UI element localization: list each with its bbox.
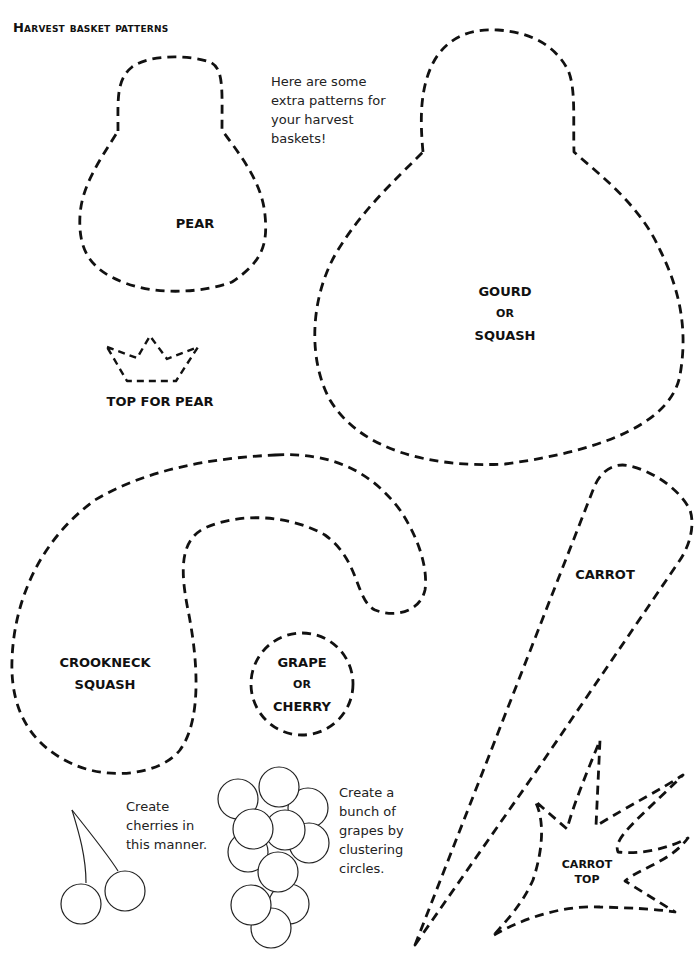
cherries-note-line: this manner. — [126, 835, 207, 854]
cherry-left — [61, 884, 101, 924]
grape-label: GRAPE OR CHERRY — [262, 652, 342, 718]
cherry-stem-right — [72, 810, 118, 871]
gourd-label-line1: GOURD — [455, 281, 555, 303]
intro-note-line: extra patterns for — [271, 91, 386, 110]
pear-top-outline — [107, 336, 198, 381]
intro-note-line: baskets! — [271, 129, 386, 148]
grapes-note-line: circles. — [339, 859, 404, 878]
carrot-top-label-line1: CARROT — [547, 857, 627, 872]
intro-note-line: Here are some — [271, 72, 386, 91]
grape-label-line1: GRAPE — [262, 652, 342, 674]
cherries-note-line: Create — [126, 797, 207, 816]
pear-outline — [80, 57, 266, 291]
intro-note: Here are some extra patterns for your ha… — [271, 72, 386, 148]
pear-label: PEAR — [145, 216, 245, 232]
cherry-stem-left — [72, 810, 86, 883]
carrot-top-label-line2: TOP — [547, 872, 627, 887]
crookneck-label-line1: CROOKNECK — [45, 652, 165, 674]
grape-label-line2: OR — [262, 674, 342, 696]
cherries-note: Create cherries in this manner. — [126, 797, 207, 854]
cherry-right — [105, 871, 145, 911]
grape-cluster — [218, 767, 329, 948]
grapes-note-line: Create a — [339, 783, 404, 802]
crookneck-outline — [12, 455, 426, 774]
grapes-note-line: clustering — [339, 840, 404, 859]
gourd-label-line2: OR — [455, 303, 555, 325]
gourd-label: GOURD OR SQUASH — [455, 281, 555, 347]
grapes-note-line: grapes by — [339, 821, 404, 840]
carrot-top-outline — [494, 740, 688, 935]
carrot-top-label: CARROT TOP — [547, 857, 627, 887]
intro-note-line: your harvest — [271, 110, 386, 129]
gourd-label-line3: SQUASH — [455, 325, 555, 347]
carrot-label: CARROT — [565, 567, 645, 583]
crookneck-label-line2: SQUASH — [45, 674, 165, 696]
grape-label-line3: CHERRY — [262, 696, 342, 718]
cherries-note-line: cherries in — [126, 816, 207, 835]
pear-top-label: TOP FOR PEAR — [85, 394, 235, 410]
grapes-note: Create a bunch of grapes by clustering c… — [339, 783, 404, 878]
grapes-note-line: bunch of — [339, 802, 404, 821]
crookneck-label: CROOKNECK SQUASH — [45, 652, 165, 696]
